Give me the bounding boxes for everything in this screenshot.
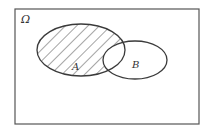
set-b-label: B	[131, 59, 139, 70]
venn-diagram: Ω A B	[0, 0, 210, 137]
universe-label: Ω	[20, 13, 30, 26]
set-a-label: A	[71, 61, 79, 72]
